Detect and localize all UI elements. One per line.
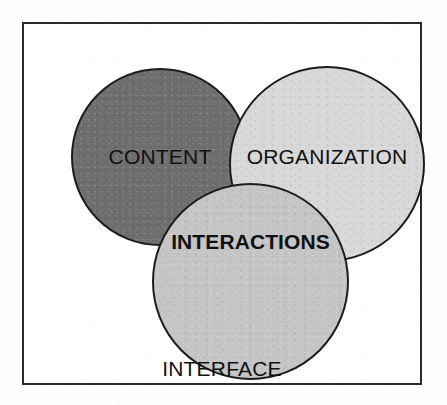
diagram-caption-interface: INTERFACE — [24, 358, 420, 379]
scan-grain-texture — [154, 185, 347, 378]
diagram-frame: CONTENT ORGANIZATION INTERACTIONS INTERF… — [22, 22, 422, 385]
venn-circle-label-organization: ORGANIZATION — [247, 146, 408, 167]
figure-canvas: CONTENT ORGANIZATION INTERACTIONS INTERF… — [0, 0, 447, 405]
venn-circle-interactions: INTERACTIONS — [152, 183, 349, 380]
venn-circle-label-content: CONTENT — [109, 146, 212, 167]
venn-circle-label-interactions: INTERACTIONS — [171, 231, 330, 252]
